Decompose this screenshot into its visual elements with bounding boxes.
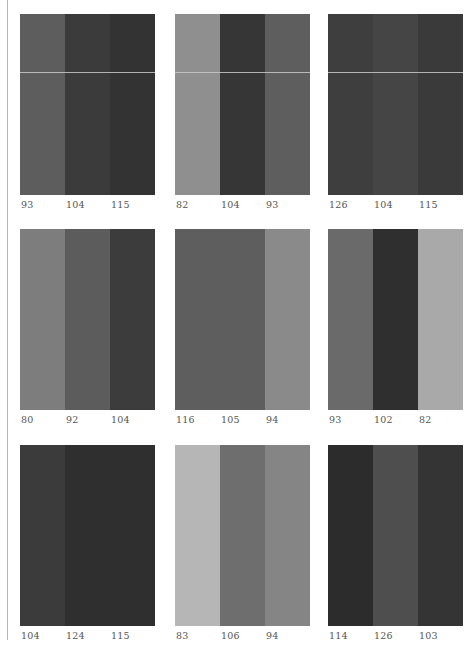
swatch-value-label: 82 — [419, 414, 432, 425]
swatch-value-label: 93 — [329, 414, 342, 425]
swatch-labels: 8210493 — [175, 199, 310, 213]
swatch-value-label: 83 — [176, 630, 189, 641]
swatch-value-label: 104 — [111, 414, 130, 425]
gray-stripe — [220, 14, 265, 195]
swatch-labels: 114126103 — [328, 630, 463, 644]
gray-stripe — [20, 14, 65, 195]
gray-stripe — [373, 445, 418, 626]
horizontal-divider-line — [328, 72, 463, 73]
swatch-value-label: 94 — [266, 630, 279, 641]
gray-stripe — [265, 229, 310, 410]
swatch-value-label: 116 — [176, 414, 195, 425]
swatch-value-label: 102 — [374, 414, 393, 425]
gray-stripe — [418, 445, 463, 626]
gray-stripe — [418, 14, 463, 195]
gray-stripe — [65, 445, 110, 626]
swatch-labels: 8310694 — [175, 630, 310, 644]
swatch-value-label: 104 — [374, 199, 393, 210]
gray-stripe — [110, 445, 155, 626]
swatch-value-label: 93 — [21, 199, 34, 210]
gray-stripe — [328, 229, 373, 410]
swatch-value-label: 115 — [419, 199, 438, 210]
swatch-panel — [175, 229, 310, 410]
swatch-value-label: 106 — [221, 630, 240, 641]
swatch-value-label: 115 — [111, 630, 130, 641]
gray-stripe — [175, 14, 220, 195]
swatch-value-label: 126 — [374, 630, 393, 641]
horizontal-divider-line — [20, 72, 155, 73]
gray-stripe — [110, 229, 155, 410]
swatch-value-label: 93 — [266, 199, 279, 210]
swatch-labels: 93104115 — [20, 199, 155, 213]
swatch-value-label: 105 — [221, 414, 240, 425]
gray-stripe — [110, 14, 155, 195]
swatch-panel — [328, 445, 463, 626]
swatch-panel — [175, 445, 310, 626]
swatch-labels: 8092104 — [20, 414, 155, 428]
swatch-value-label: 103 — [419, 630, 438, 641]
swatch-panel — [20, 445, 155, 626]
swatch-value-label: 126 — [329, 199, 348, 210]
gray-stripe — [265, 14, 310, 195]
swatch-panel — [175, 14, 310, 195]
gray-stripe — [175, 445, 220, 626]
swatch-value-label: 104 — [221, 199, 240, 210]
gray-stripe — [418, 229, 463, 410]
gray-stripe — [175, 229, 220, 410]
swatch-panel — [20, 229, 155, 410]
gray-stripe — [20, 445, 65, 626]
swatch-value-label: 92 — [66, 414, 79, 425]
swatch-panel — [328, 14, 463, 195]
gray-stripe — [328, 14, 373, 195]
gray-stripe — [373, 229, 418, 410]
swatch-value-label: 80 — [21, 414, 34, 425]
gray-stripe — [220, 445, 265, 626]
gray-stripe — [65, 229, 110, 410]
swatch-labels: 9310282 — [328, 414, 463, 428]
horizontal-divider-line — [175, 72, 310, 73]
swatch-value-label: 94 — [266, 414, 279, 425]
swatch-value-label: 104 — [66, 199, 85, 210]
gray-stripe — [65, 14, 110, 195]
gray-stripe — [328, 445, 373, 626]
swatch-panel — [20, 14, 155, 195]
swatch-value-label: 115 — [111, 199, 130, 210]
gray-stripe — [220, 229, 265, 410]
swatch-value-label: 104 — [21, 630, 40, 641]
gray-stripe — [373, 14, 418, 195]
swatch-labels: 126104115 — [328, 199, 463, 213]
gray-stripe — [20, 229, 65, 410]
swatch-labels: 11610594 — [175, 414, 310, 428]
left-margin-rule — [7, 0, 8, 640]
swatch-value-label: 124 — [66, 630, 85, 641]
swatch-value-label: 82 — [176, 199, 189, 210]
swatch-panel — [328, 229, 463, 410]
swatch-value-label: 114 — [329, 630, 348, 641]
swatch-labels: 104124115 — [20, 630, 155, 644]
gray-stripe — [265, 445, 310, 626]
